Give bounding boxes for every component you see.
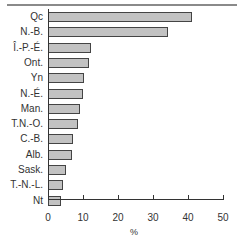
x-tick [188,195,189,199]
bar [48,27,168,37]
bar [48,58,89,68]
x-tick-label: 50 [213,212,233,223]
category-label: Alb. [26,149,43,160]
x-tick-label: 30 [143,212,163,223]
category-label: N.-B. [20,26,43,37]
x-tick-label: 40 [178,212,198,223]
bar [48,12,192,22]
bar [48,119,78,129]
category-label: Qc [30,11,43,22]
bar [48,180,63,190]
bar [48,73,84,83]
category-label: Î.-P.-É. [13,42,43,53]
bar [48,104,80,114]
x-tick-label: 0 [38,212,58,223]
y-axis [48,9,49,200]
x-tick-label: 10 [73,212,93,223]
top-rule [7,4,237,6]
x-tick [83,195,84,199]
bar [48,165,66,175]
bar [48,196,61,206]
x-tick [223,195,224,199]
x-axis-label: % [130,227,138,237]
bar [48,150,72,160]
x-axis [48,199,224,200]
category-label: Nt [33,195,43,206]
category-label: Ont. [24,57,43,68]
bar [48,43,91,53]
bar [48,89,83,99]
bar [48,134,73,144]
category-label: N.-É. [20,88,43,99]
category-label: C.-B. [20,133,43,144]
x-tick [118,195,119,199]
category-label: Yn [31,72,43,83]
category-label: Sask. [18,164,43,175]
category-label: T.-N.-L. [10,179,43,190]
category-label: Man. [21,103,43,114]
x-tick-label: 20 [108,212,128,223]
category-label: T.N.-O. [11,118,43,129]
x-tick [153,195,154,199]
